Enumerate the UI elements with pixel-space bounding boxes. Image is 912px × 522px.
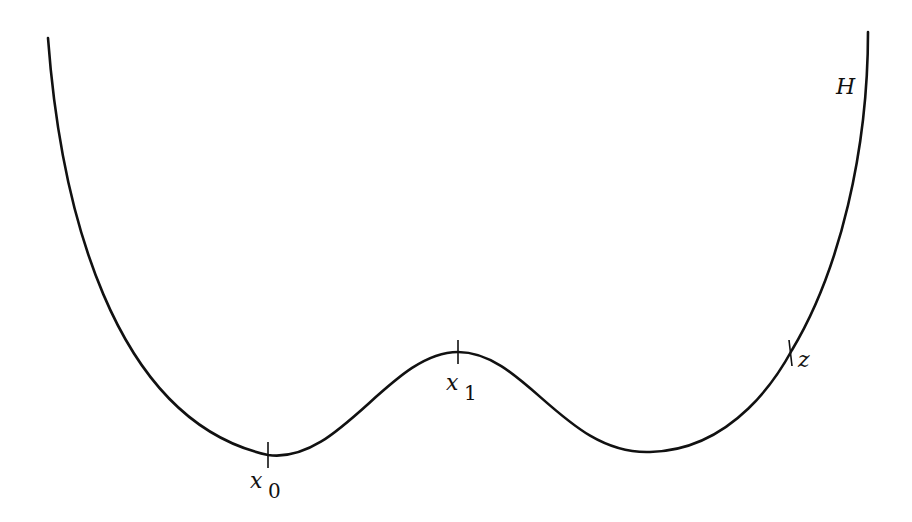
label-x0-subscript: 0 <box>268 479 281 503</box>
label-h: H <box>835 74 856 99</box>
label-x1-subscript: 1 <box>464 381 477 405</box>
label-z: z <box>797 347 810 372</box>
label-x0: x <box>250 468 263 493</box>
label-x1: x <box>446 370 459 395</box>
double-well-diagram: H x 0 x 1 z <box>0 0 912 522</box>
